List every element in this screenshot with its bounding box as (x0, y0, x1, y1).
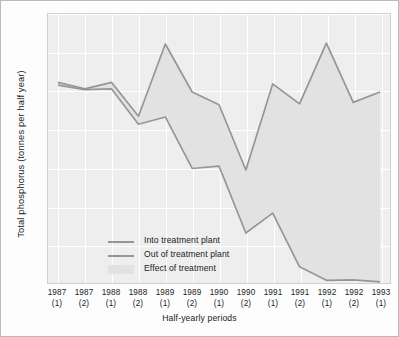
x-tick-half: (1) (361, 299, 399, 310)
x-axis-title: Half-yearly periods (1, 313, 398, 323)
legend-line-icon (108, 255, 134, 257)
legend-label: Into treatment plant (144, 235, 220, 245)
chart-figure: Total phosphorus (tonnes per half year) … (0, 0, 399, 337)
x-axis-tick-label: 1993(1) (361, 288, 399, 309)
y-axis-title: Total phosphorus (tonnes per half year) (16, 34, 26, 274)
legend-area-swatch-icon (108, 265, 134, 274)
plot-area: Into treatment plant Out of treatment pl… (47, 13, 391, 284)
legend-label: Out of treatment plant (144, 249, 229, 259)
legend-label: Effect of treatment (144, 263, 216, 273)
x-tick-year: 1993 (361, 288, 399, 299)
legend-line-icon (108, 241, 134, 243)
effect-of-treatment-area (58, 43, 380, 282)
